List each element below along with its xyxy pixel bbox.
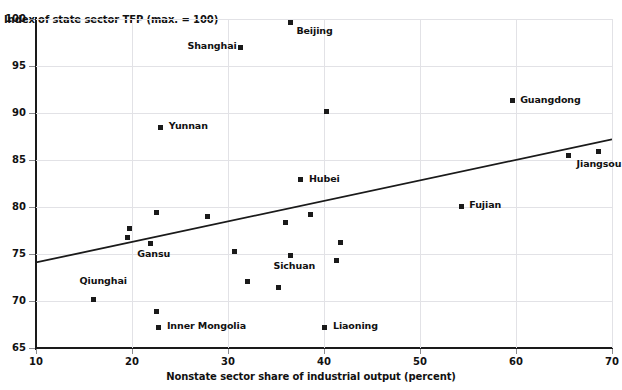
y-axis-tick	[29, 160, 35, 161]
x-axis-tick	[36, 349, 37, 354]
y-axis-tick	[29, 254, 35, 255]
gridline-vertical	[132, 19, 133, 348]
y-axis-tick-label: 90	[2, 108, 26, 118]
data-point	[566, 153, 571, 158]
gridline-horizontal	[36, 207, 612, 208]
data-point-gansu	[148, 241, 153, 246]
data-point-label: Hubei	[309, 173, 340, 184]
data-point	[205, 214, 210, 219]
data-point	[324, 109, 329, 114]
data-point-liaoning	[322, 325, 327, 330]
data-point-guangdong	[510, 98, 515, 103]
gridline-vertical	[228, 19, 229, 348]
y-axis-tick-label: 75	[2, 249, 26, 259]
data-point	[283, 220, 288, 225]
data-point	[308, 212, 313, 217]
y-axis-tick	[29, 66, 35, 67]
data-point	[338, 240, 343, 245]
data-point	[232, 249, 237, 254]
x-axis-tick-label: 20	[117, 356, 147, 367]
gridline-vertical	[612, 19, 613, 348]
gridline-vertical	[516, 19, 517, 348]
data-point-label: Inner Mongolia	[167, 320, 246, 331]
x-axis-title: Nonstate sector share of industrial outp…	[0, 371, 622, 382]
y-axis-tick	[29, 113, 35, 114]
data-point-shanghai	[238, 45, 243, 50]
x-axis-tick-label: 10	[21, 356, 51, 367]
data-point-label: Qiunghai	[80, 275, 127, 286]
data-point-qiunghai	[91, 297, 96, 302]
data-point-yunnan	[158, 125, 163, 130]
x-axis-tick	[612, 349, 613, 354]
data-point	[245, 279, 250, 284]
data-point-label: Fujian	[469, 199, 501, 210]
y-axis-tick	[29, 301, 35, 302]
data-point-inner-mongolia	[156, 325, 161, 330]
data-point-label: Jiangsou	[577, 158, 622, 169]
y-axis-tick-label: 95	[2, 61, 26, 71]
y-axis-tick	[29, 19, 35, 20]
data-point	[334, 258, 339, 263]
data-point-label: Sichuan	[273, 260, 315, 271]
gridline-horizontal	[36, 160, 612, 161]
gridline-horizontal	[36, 254, 612, 255]
x-axis-tick-label: 70	[597, 356, 622, 367]
plot-area: BeijingShanghaiGuangdongYunnanJiangsouHu…	[36, 19, 612, 348]
data-point-beijing	[288, 20, 293, 25]
scatter-chart: Index of state sector TFP (max. = 100) B…	[0, 0, 622, 390]
data-point-label: Beijing	[296, 25, 332, 36]
data-point-label: Guangdong	[520, 94, 581, 105]
data-point-label: Gansu	[137, 248, 170, 259]
x-axis-tick	[420, 349, 421, 354]
y-axis-tick-label: 80	[2, 202, 26, 212]
y-axis-tick-label: 85	[2, 155, 26, 165]
x-axis-tick	[228, 349, 229, 354]
data-point	[154, 210, 159, 215]
data-point	[154, 309, 159, 314]
data-point	[125, 235, 130, 240]
y-axis-tick-label: 65	[2, 343, 26, 353]
data-point-jiangsou	[596, 149, 601, 154]
x-axis-tick	[132, 349, 133, 354]
x-axis-tick	[516, 349, 517, 354]
x-axis-tick-label: 60	[501, 356, 531, 367]
x-axis-tick-label: 40	[309, 356, 339, 367]
x-axis-tick-label: 30	[213, 356, 243, 367]
gridline-horizontal	[36, 19, 612, 20]
y-axis-tick	[29, 207, 35, 208]
gridline-horizontal	[36, 301, 612, 302]
x-axis-tick-label: 50	[405, 356, 435, 367]
y-axis-tick	[29, 348, 35, 349]
gridline-horizontal	[36, 66, 612, 67]
x-axis-tick	[324, 349, 325, 354]
data-point-label: Shanghai	[187, 40, 236, 51]
y-axis-tick-label: 100	[2, 14, 26, 24]
data-point-fujian	[459, 204, 464, 209]
data-point-hubei	[298, 177, 303, 182]
data-point	[127, 226, 132, 231]
gridline-vertical	[420, 19, 421, 348]
y-axis-tick-label: 70	[2, 296, 26, 306]
data-point-sichuan	[288, 253, 293, 258]
data-point-label: Liaoning	[333, 320, 378, 331]
data-point	[276, 285, 281, 290]
data-point-label: Yunnan	[169, 120, 208, 131]
